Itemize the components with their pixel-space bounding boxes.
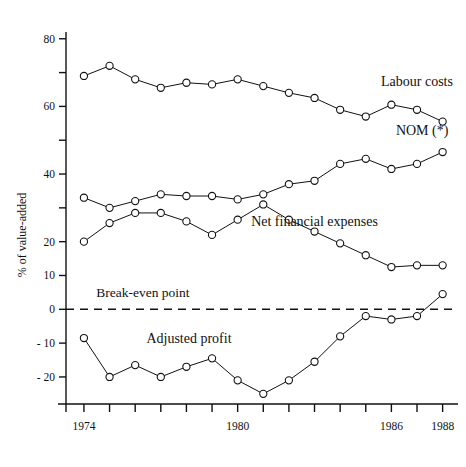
data-point-marker (388, 316, 395, 323)
x-axis-tick-label: 1986 (380, 420, 403, 432)
data-point-marker (285, 377, 292, 384)
data-point-marker (132, 76, 139, 83)
data-point-marker (157, 191, 164, 198)
data-point-marker (106, 373, 113, 380)
chart-figure: 80604020100- 10- 20 1974198019861988 Lab… (0, 0, 466, 467)
data-point-marker (337, 106, 344, 113)
y-axis-tick-label: 10 (44, 269, 56, 281)
data-point-marker (362, 312, 369, 319)
data-point-marker (208, 355, 215, 362)
x-axis-tick-label: 1980 (226, 420, 249, 432)
data-point-marker (208, 81, 215, 88)
series-label: Labour costs (381, 74, 453, 89)
break-even-point-label: Break-even point (96, 285, 190, 300)
x-axis: 1974198019861988 (58, 404, 458, 432)
data-point-marker (132, 197, 139, 204)
data-point-marker (234, 196, 241, 203)
annotation-group: Break-even point (96, 285, 190, 300)
x-axis-tick-label: 1988 (431, 420, 454, 432)
data-point-marker (413, 160, 420, 167)
data-point-marker (439, 262, 446, 269)
data-point-marker (208, 192, 215, 199)
data-point-marker (439, 290, 446, 297)
data-point-marker (157, 84, 164, 91)
data-point-marker (388, 165, 395, 172)
data-point-marker (260, 201, 267, 208)
series-label-group: Labour costsNOM (*)Net financial expense… (146, 74, 453, 346)
series-label: Net financial expenses (251, 214, 378, 229)
data-point-marker (132, 209, 139, 216)
data-point-marker (285, 89, 292, 96)
data-point-marker (311, 177, 318, 184)
data-point-marker (183, 363, 190, 370)
data-point-marker (183, 192, 190, 199)
data-point-marker (413, 312, 420, 319)
data-point-marker (234, 377, 241, 384)
data-point-marker (132, 362, 139, 369)
series-label: NOM (*) (396, 123, 449, 139)
chart-plot-area: 80604020100- 10- 20 1974198019861988 Lab… (0, 0, 466, 467)
series-label: Adjusted profit (146, 331, 231, 346)
data-point-marker (362, 155, 369, 162)
data-point-marker (362, 252, 369, 259)
data-point-marker (106, 204, 113, 211)
data-point-marker (80, 238, 87, 245)
y-axis-tick-label: - 20 (37, 371, 55, 383)
data-point-marker (183, 218, 190, 225)
data-point-marker (311, 358, 318, 365)
y-axis-tick-label: - 10 (37, 337, 55, 349)
y-axis-tick-label: 20 (44, 236, 56, 248)
data-point-marker (413, 262, 420, 269)
data-point-marker (362, 113, 369, 120)
data-point-marker (337, 333, 344, 340)
data-point-marker (234, 216, 241, 223)
data-point-marker (260, 83, 267, 90)
data-point-marker (337, 240, 344, 247)
data-series-group (80, 62, 446, 397)
data-point-marker (413, 106, 420, 113)
data-point-marker (80, 72, 87, 79)
x-axis-tick-label: 1974 (72, 420, 95, 432)
data-point-marker (157, 373, 164, 380)
y-axis-tick-label: 40 (44, 168, 56, 180)
data-point-marker (157, 209, 164, 216)
data-point-marker (80, 334, 87, 341)
data-point-marker (260, 191, 267, 198)
y-axis-tick-label: 0 (49, 303, 55, 315)
data-point-marker (311, 94, 318, 101)
data-point-marker (106, 219, 113, 226)
y-axis-tick-label: 80 (44, 33, 56, 45)
data-point-marker (80, 194, 87, 201)
data-point-marker (439, 148, 446, 155)
data-point-marker (183, 79, 190, 86)
data-point-marker (388, 263, 395, 270)
data-point-marker (388, 101, 395, 108)
data-point-marker (337, 160, 344, 167)
data-point-marker (285, 181, 292, 188)
data-point-marker (106, 62, 113, 69)
y-axis: 80604020100- 10- 20 (37, 32, 66, 412)
data-point-marker (234, 76, 241, 83)
data-point-marker (208, 231, 215, 238)
y-axis-title: % of value-added (15, 193, 29, 278)
data-point-marker (260, 390, 267, 397)
y-axis-tick-label: 60 (44, 100, 56, 112)
